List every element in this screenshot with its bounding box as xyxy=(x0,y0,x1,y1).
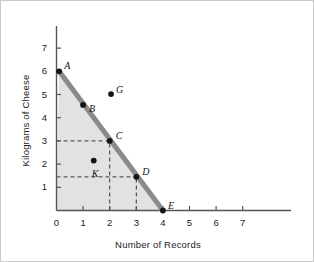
x-tick-label-2: 2 xyxy=(102,217,118,228)
x-tick-label-5: 5 xyxy=(182,217,198,228)
y-tick-label-3: 3 xyxy=(37,135,53,146)
point-label-d: D xyxy=(142,166,149,177)
y-tick-label-2: 2 xyxy=(37,158,53,169)
x-tick-label-4: 4 xyxy=(155,217,171,228)
y-tick-label-4: 4 xyxy=(37,112,53,123)
point-label-e: E xyxy=(168,200,174,211)
point-label-c: C xyxy=(116,130,123,141)
point-label-b: B xyxy=(89,103,95,114)
point-label-a: A xyxy=(64,60,70,71)
point-label-g: G xyxy=(116,84,123,95)
y-axis-title: Kilograms of Cheese xyxy=(20,31,31,211)
x-tick-label-3: 3 xyxy=(128,217,144,228)
y-tick-label-6: 6 xyxy=(37,65,53,76)
chart-figure: 012345671234567 ABGCKDE Number of Record… xyxy=(0,0,314,262)
y-tick-label-5: 5 xyxy=(37,89,53,100)
x-tick-label-0: 0 xyxy=(49,217,65,228)
x-tick-label-7: 7 xyxy=(235,217,251,228)
y-tick-label-7: 7 xyxy=(37,42,53,53)
x-tick-label-6: 6 xyxy=(208,217,224,228)
y-tick-label-1: 1 xyxy=(37,181,53,192)
x-tick-label-1: 1 xyxy=(75,217,91,228)
x-axis-title: Number of Records xyxy=(1,239,314,250)
point-label-k: K xyxy=(92,168,99,179)
